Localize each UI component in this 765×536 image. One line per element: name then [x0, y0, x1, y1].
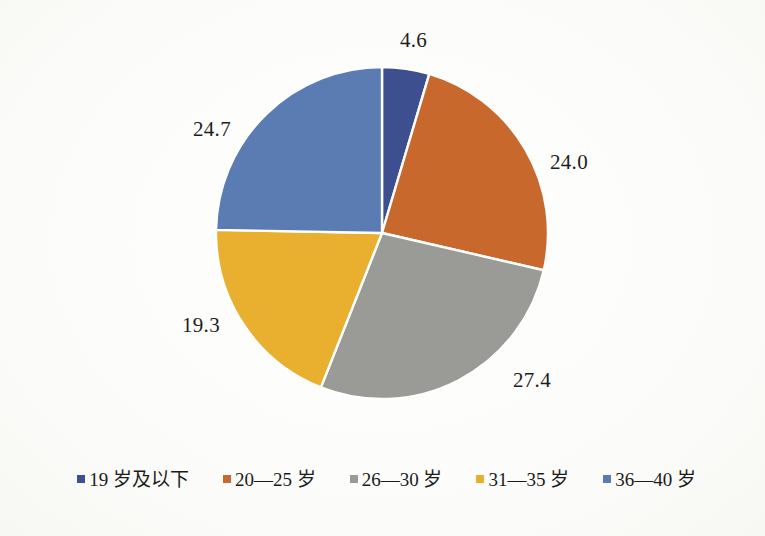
legend-item-36-40[interactable]: 36—40 岁	[603, 470, 696, 489]
pie-slice[interactable]	[216, 67, 382, 233]
pie-chart: 4.6 24.0 27.4 19.3 24.7	[0, 0, 765, 440]
chart-legend: 19 岁及以下 20—25 岁 26—30 岁 31—35 岁 36—40 岁	[0, 462, 765, 496]
data-label-20-25: 24.0	[550, 150, 588, 175]
legend-item-label: 26—30 岁	[362, 470, 443, 489]
legend-item-label: 19 岁及以下	[89, 470, 189, 489]
legend-item-31-35[interactable]: 31—35 岁	[476, 470, 569, 489]
legend-swatch-icon	[476, 475, 484, 483]
data-label-19-and-under: 4.6	[400, 28, 427, 53]
legend-item-label: 20—25 岁	[235, 470, 316, 489]
legend-swatch-icon	[603, 475, 611, 483]
legend-item-label: 36—40 岁	[615, 470, 696, 489]
pie-slice-group	[216, 67, 548, 399]
chart-page: 4.6 24.0 27.4 19.3 24.7 19 岁及以下 20—25 岁 …	[0, 0, 765, 536]
legend-item-20-25[interactable]: 20—25 岁	[223, 470, 316, 489]
data-label-36-40: 24.7	[193, 117, 231, 142]
data-label-26-30: 27.4	[513, 368, 551, 393]
pie-svg	[0, 0, 765, 440]
legend-item-label: 31—35 岁	[488, 470, 569, 489]
legend-item-19-and-under[interactable]: 19 岁及以下	[77, 470, 189, 489]
legend-swatch-icon	[223, 475, 231, 483]
legend-item-26-30[interactable]: 26—30 岁	[350, 470, 443, 489]
legend-swatch-icon	[77, 475, 85, 483]
legend-swatch-icon	[350, 475, 358, 483]
data-label-31-35: 19.3	[182, 313, 220, 338]
